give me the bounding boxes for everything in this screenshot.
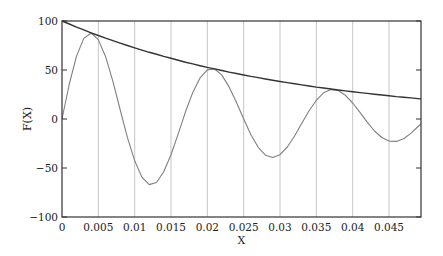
x-tick-label: 0.02 [196,221,219,233]
x-tick-label: 0.01 [123,221,146,233]
x-tick-label: 0.005 [83,221,113,233]
x-axis-label: X [238,234,246,247]
x-tick-label: 0.045 [374,221,404,233]
data-series [62,21,421,185]
x-tick-label: 0 [59,221,66,233]
x-tick-label: 0.03 [268,221,291,233]
x-tick-label: 0.015 [156,221,186,233]
x-tick-label: 0.035 [301,221,331,233]
y-tick-label: 0 [51,113,58,125]
x-tick-label: 0.025 [229,221,259,233]
y-tick-label: 50 [45,64,58,76]
y-axis-label: F(X) [21,107,34,131]
plot-frame [62,21,421,217]
line-chart: 00.0050.010.0150.020.0250.030.0350.040.0… [0,0,443,256]
y-tick-label: −50 [36,162,58,174]
envelope-line [62,21,421,99]
y-tick-label: 100 [38,15,58,27]
x-axis-ticks: 00.0050.010.0150.020.0250.030.0350.040.0… [59,221,404,233]
oscillation-line [62,33,421,185]
x-tick-label: 0.04 [341,221,365,233]
y-axis-ticks: −100−50050100 [29,15,421,223]
y-tick-label: −100 [29,211,58,223]
